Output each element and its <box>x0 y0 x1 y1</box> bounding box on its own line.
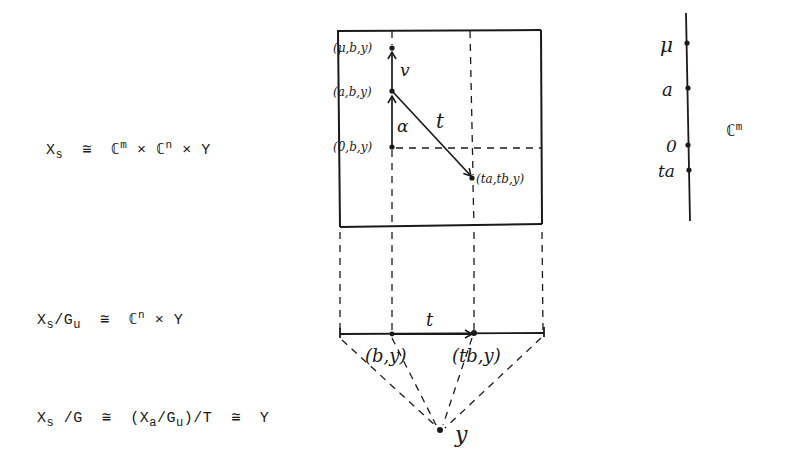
label-0-b-y: (0,b,y) <box>333 140 372 154</box>
cm-axis <box>684 13 691 221</box>
label-tb-y: (tb,y) <box>452 345 501 366</box>
axis-label-mu: μ <box>660 33 673 57</box>
axis-point-ta <box>686 167 691 172</box>
point-ta-tb-y <box>469 175 474 180</box>
axis-point-0 <box>685 142 690 147</box>
point-tb-y <box>471 330 477 336</box>
axis-point-mu <box>684 40 689 45</box>
label-a-b-y: (a,b,y) <box>333 85 372 99</box>
label-alpha: α <box>397 116 409 136</box>
label-b-y: (b,y) <box>365 345 406 366</box>
axis-label-0: 0 <box>666 136 677 156</box>
label-t-diagonal: t <box>436 109 445 133</box>
point-0-b-y <box>389 144 394 149</box>
axis-label-ta: ta <box>658 161 675 181</box>
fibration-diagram: (μ,b,y) (a,b,y) (0,b,y) (ta,tb,y) v α t … <box>0 0 797 463</box>
label-t-base: t <box>426 309 434 330</box>
label-ta-tb-y: (ta,tb,y) <box>476 172 525 186</box>
base-line <box>340 327 544 338</box>
point-mu-b-y <box>389 45 394 50</box>
label-v: v <box>400 60 410 80</box>
point-a-b-y <box>389 88 394 93</box>
label-mu-b-y: (μ,b,y) <box>333 41 373 55</box>
point-b-y <box>390 332 395 337</box>
label-y: y <box>454 422 468 447</box>
axis-point-a <box>685 85 690 90</box>
point-y <box>437 427 443 433</box>
axis-label-a: a <box>662 79 673 100</box>
axis-label-cm: ℂm <box>726 121 743 141</box>
